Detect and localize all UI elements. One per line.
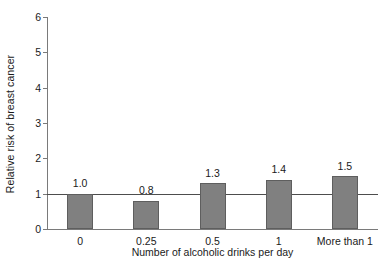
x-axis-title: Number of alcoholic drinks per day: [47, 247, 378, 258]
bar-group: 1.4: [266, 16, 292, 229]
y-axis-tick-label: 2: [35, 153, 41, 164]
x-axis-tick-label: 0: [77, 236, 83, 247]
bar[interactable]: [332, 176, 358, 229]
x-axis-tick-label: 0.25: [136, 236, 156, 247]
y-axis-title: Relative risk of breast cancer: [3, 17, 17, 231]
y-axis-tick-label: 5: [35, 47, 41, 58]
bars-layer: 1.00.81.31.41.5: [47, 17, 378, 230]
y-axis-tick-label: 4: [35, 82, 41, 93]
y-axis-tick-label: 1: [35, 188, 41, 199]
x-axis-tick-label: More than 1: [317, 236, 373, 247]
bar-chart: Relative risk of breast cancer 0123456 1…: [0, 0, 390, 276]
bar[interactable]: [67, 194, 93, 229]
bar[interactable]: [133, 201, 159, 229]
bar-group: 1.5: [332, 16, 358, 229]
bar-value-label: 1.5: [338, 161, 353, 172]
bar-value-label: 1.3: [205, 168, 220, 179]
bar-group: 1.3: [200, 16, 226, 229]
plot-area: 0123456 1.00.81.31.41.5 00.250.51More th…: [47, 17, 378, 230]
y-axis-tick-label: 6: [35, 12, 41, 23]
x-axis-tick-label: 0.5: [205, 236, 220, 247]
bar[interactable]: [200, 183, 226, 229]
bar-value-label: 1.4: [271, 164, 286, 175]
y-axis-tick-label: 3: [35, 118, 41, 129]
bar-value-label: 0.8: [139, 185, 154, 196]
bar-group: 1.0: [67, 16, 93, 229]
x-axis-tick-label: 1: [276, 236, 282, 247]
bar-value-label: 1.0: [73, 178, 88, 189]
bar-group: 0.8: [133, 16, 159, 229]
y-axis-tick-label: 0: [35, 224, 41, 235]
bar[interactable]: [266, 180, 292, 229]
